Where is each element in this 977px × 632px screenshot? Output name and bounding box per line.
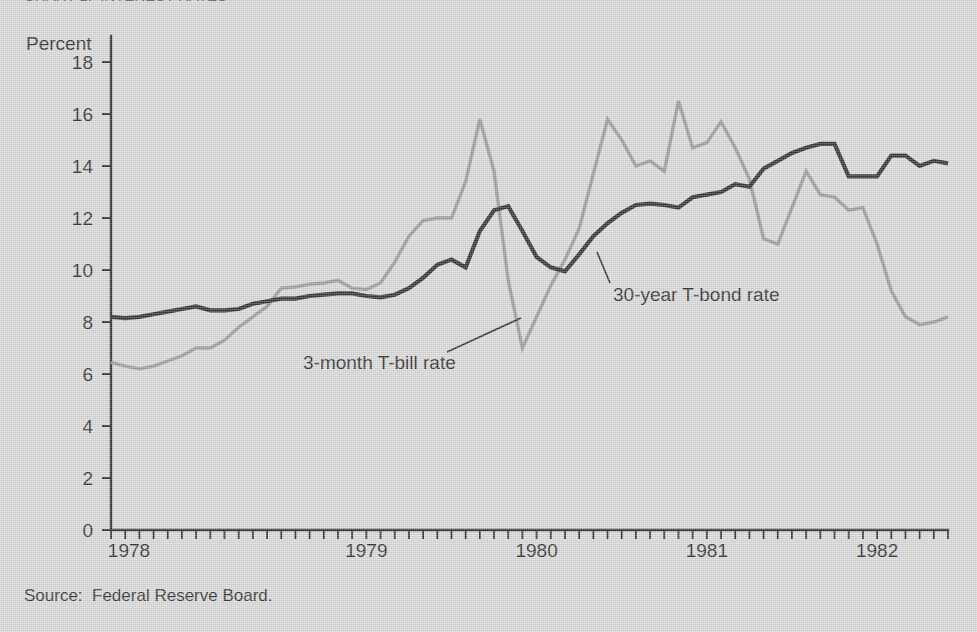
tbond-annotation-leader-line [597, 252, 610, 283]
y-axis-tick-label: 2 [82, 468, 93, 489]
y-axis-tick-label: 0 [82, 520, 93, 541]
chart-figure: 024681012141618 19781979198019811982 Per… [0, 0, 977, 632]
tbill-annotation-label: 3-month T-bill rate [303, 352, 456, 373]
y-axis-title: Percent [26, 33, 92, 54]
x-axis-year-label: 1982 [856, 540, 898, 561]
y-axis-tick-label: 4 [82, 416, 93, 437]
y-axis-tick-labels: 024681012141618 [72, 52, 94, 541]
x-axis-year-label: 1981 [686, 540, 728, 561]
y-axis-tick-label: 10 [72, 260, 93, 281]
interest-rates-line-chart: 024681012141618 19781979198019811982 Per… [0, 0, 977, 632]
y-axis-tick-label: 6 [82, 364, 93, 385]
y-axis-ticks [102, 62, 111, 530]
cropped-header-text: CHART 1. INTEREST RATES [24, 0, 227, 4]
cropped-figure-header: CHART 1. INTEREST RATES [0, 0, 977, 5]
source-note: Source: Federal Reserve Board. [24, 586, 273, 606]
y-axis-tick-label: 16 [72, 104, 93, 125]
x-axis-year-label: 1980 [515, 540, 557, 561]
x-axis-year-label: 1979 [345, 540, 387, 561]
y-axis-tick-label: 18 [72, 52, 93, 73]
chart-axes [111, 36, 948, 530]
y-axis-tick-label: 12 [72, 208, 93, 229]
tbond-annotation-label: 30-year T-bond rate [613, 284, 780, 305]
series-line-3-month-t-bill [111, 101, 948, 369]
y-axis-tick-label: 14 [72, 156, 94, 177]
x-axis-monthly-ticks [111, 530, 948, 539]
x-axis-year-label: 1978 [108, 540, 150, 561]
series-line-30-year-t-bond [111, 144, 948, 318]
chart-annotations: 3-month T-bill rate30-year T-bond rate [303, 252, 780, 373]
y-axis-tick-label: 8 [82, 312, 93, 333]
tbill-annotation-leader-line [447, 318, 521, 352]
x-axis-year-labels: 19781979198019811982 [108, 540, 898, 561]
